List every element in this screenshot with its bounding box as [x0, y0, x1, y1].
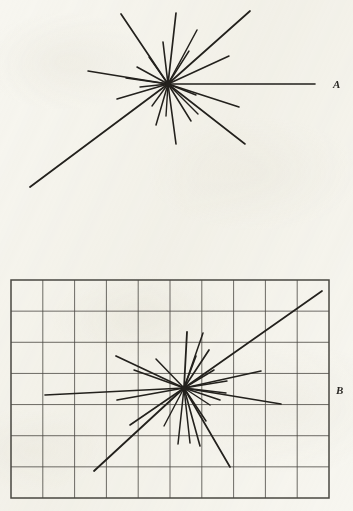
ray-a-2 — [168, 11, 250, 84]
starburst-center-a — [165, 81, 170, 86]
starburst-center-b — [181, 385, 186, 390]
ray-b-13 — [184, 388, 230, 467]
ray-a-17 — [168, 84, 176, 144]
star-plot-figure — [0, 0, 353, 511]
ray-b-24 — [116, 356, 184, 388]
panel-a — [30, 11, 315, 187]
panel-label-a: A — [333, 79, 341, 90]
ray-a-13 — [30, 84, 168, 187]
panel-label-b: B — [336, 385, 344, 396]
figure-page: A B — [0, 0, 353, 511]
ray-a-20 — [168, 84, 245, 144]
panel-b — [45, 291, 322, 471]
ray-b-18 — [94, 388, 184, 471]
